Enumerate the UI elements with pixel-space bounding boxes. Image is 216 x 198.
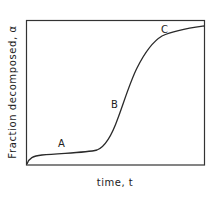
chart: A B C time, t Fraction decomposed, α bbox=[0, 0, 216, 198]
plot-frame bbox=[27, 21, 205, 166]
point-c-label: C bbox=[161, 24, 168, 35]
y-axis-label: Fraction decomposed, α bbox=[7, 25, 18, 158]
alpha-curve bbox=[27, 26, 204, 164]
point-a-label: A bbox=[58, 138, 65, 149]
x-axis-label: time, t bbox=[97, 177, 133, 188]
point-b-label: B bbox=[111, 99, 118, 110]
